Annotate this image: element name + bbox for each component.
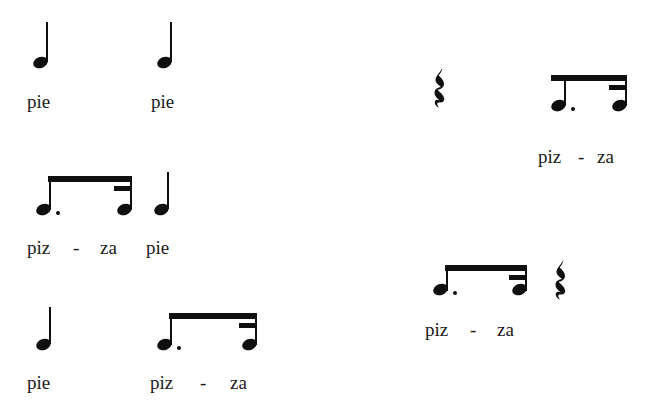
stem — [130, 177, 132, 210]
lyric-syllable: pie — [27, 373, 50, 392]
stem — [49, 307, 51, 344]
stem — [46, 22, 48, 62]
lyric-syllable: pie — [27, 92, 50, 111]
stem — [170, 314, 172, 345]
lyric-syllable: piz — [27, 238, 50, 257]
primary-beam — [169, 313, 257, 319]
lyric-syllable: piz — [425, 320, 448, 339]
stem — [170, 22, 172, 62]
lyric-syllable: za — [597, 147, 614, 166]
lyric-syllable: za — [230, 373, 247, 392]
stem — [167, 172, 169, 209]
stem — [255, 314, 257, 345]
augmentation-dot — [571, 107, 575, 111]
stem — [625, 76, 627, 106]
quarter-rest — [551, 258, 571, 302]
primary-beam — [48, 176, 132, 182]
lyric-syllable: piz — [538, 147, 561, 166]
lyric-hyphen: - — [200, 373, 206, 392]
stem — [564, 76, 566, 106]
augmentation-dot — [177, 346, 181, 350]
augmentation-dot — [56, 211, 60, 215]
lyric-syllable: piz — [150, 373, 173, 392]
rhythm-worksheet: pie pie piz - za — [0, 0, 655, 414]
primary-beam — [445, 265, 527, 271]
lyric-syllable: pie — [151, 92, 174, 111]
lyric-hyphen: - — [73, 238, 79, 257]
lyric-syllable: za — [497, 320, 514, 339]
lyric-syllable: pie — [146, 238, 169, 257]
stem — [525, 266, 527, 291]
quarter-rest — [430, 66, 450, 110]
lyric-hyphen: - — [578, 147, 584, 166]
augmentation-dot — [453, 291, 457, 295]
stem — [446, 266, 448, 291]
primary-beam — [551, 75, 627, 81]
stem — [49, 177, 51, 210]
lyric-syllable: za — [100, 238, 117, 257]
lyric-hyphen: - — [470, 320, 476, 339]
